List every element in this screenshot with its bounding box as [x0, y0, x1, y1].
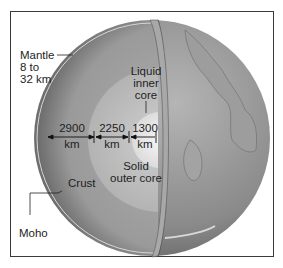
crust-label: Crust: [68, 177, 95, 189]
distance-inner-core: 1300 km: [129, 122, 161, 150]
solid-outer-core-label: Solid outer core: [104, 160, 168, 184]
liquid-inner-core-label: Liquid inner core: [124, 65, 168, 101]
mantle-label: Mantle 8 to 32 km: [20, 49, 55, 85]
moho-label: Moho: [19, 227, 48, 239]
distance-mantle: 2900 km: [52, 122, 92, 150]
distance-outer-core: 2250 km: [93, 122, 131, 150]
